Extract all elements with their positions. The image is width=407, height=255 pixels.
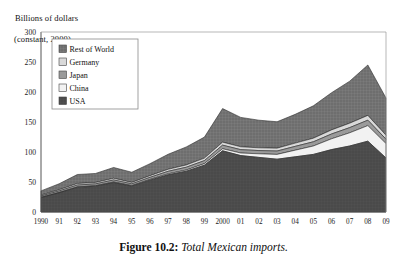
x-tick-label: 04: [292, 218, 300, 226]
x-axis-ticks: 1990919293949596979899200001020304050607…: [34, 218, 390, 226]
y-tick-label: 50: [28, 178, 36, 187]
y-tick-label: 0: [32, 208, 36, 217]
y-tick-label: 150: [25, 118, 37, 127]
y-tick-label: 300: [25, 28, 37, 37]
legend-label-rest-of-world: Rest of World: [70, 45, 115, 54]
legend-swatch-china: [59, 84, 67, 92]
legend-swatch-japan: [59, 71, 67, 79]
x-tick-label: 08: [364, 218, 372, 226]
y-axis-ticks: 050100150200250300: [25, 28, 37, 217]
figure-caption: Figure 10.2: Total Mexican imports.: [0, 241, 407, 253]
caption-text: Total Mexican imports.: [181, 241, 288, 253]
y-tick-label: 200: [25, 88, 37, 97]
x-tick-label: 92: [74, 218, 82, 226]
legend-label-china: China: [70, 84, 90, 93]
x-tick-label: 09: [382, 218, 390, 226]
x-tick-label: 01: [237, 218, 245, 226]
x-tick-label: 95: [128, 218, 136, 226]
legend-label-usa: USA: [70, 97, 86, 106]
x-tick-label: 98: [183, 218, 191, 226]
caption-prefix: Figure 10.2:: [119, 241, 178, 253]
chart-legend: Rest of WorldGermanyJapanChinaUSA: [52, 39, 138, 109]
x-tick-label: 02: [255, 218, 263, 226]
legend-swatch-rest-of-world: [59, 45, 67, 53]
chart-svg: 050100150200250300 199091929394959697989…: [0, 0, 407, 255]
x-tick-label: 2000: [215, 218, 230, 226]
x-tick-label: 96: [146, 218, 154, 226]
x-tick-label: 97: [165, 218, 173, 226]
x-tick-label: 05: [310, 218, 318, 226]
legend-swatch-germany: [59, 58, 67, 66]
x-tick-label: 94: [110, 218, 118, 226]
x-tick-label: 99: [201, 218, 209, 226]
x-tick-label: 93: [92, 218, 100, 226]
x-tick-label: 91: [56, 218, 64, 226]
figure-container: Billions of dollars (constant, 2000): [0, 0, 407, 255]
legend-swatch-usa: [59, 97, 67, 105]
legend-label-germany: Germany: [70, 58, 100, 67]
x-tick-label: 06: [328, 218, 336, 226]
y-tick-label: 100: [25, 148, 37, 157]
x-tick-label: 1990: [34, 218, 49, 226]
legend-label-japan: Japan: [70, 71, 88, 80]
x-tick-label: 07: [346, 218, 354, 226]
x-tick-label: 03: [274, 218, 282, 226]
y-tick-label: 250: [25, 58, 37, 67]
